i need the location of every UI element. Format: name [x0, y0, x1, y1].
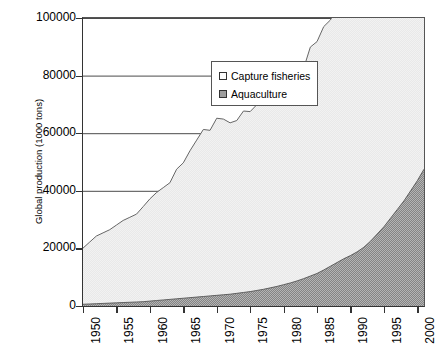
- legend-swatch-capture-fisheries: [219, 72, 227, 80]
- legend-swatch-aquaculture: [219, 90, 227, 98]
- x-axis-label-2000: 2000: [423, 317, 437, 361]
- x-tick-1970: [217, 307, 218, 313]
- x-axis-label-1990: 1990: [356, 317, 370, 361]
- y-axis-label-80000: 80000: [12, 68, 76, 82]
- plot-area: Capture fisheries Aquaculture: [82, 17, 425, 307]
- x-axis-label-1965: 1965: [189, 317, 203, 361]
- x-tick-2000: [417, 307, 418, 313]
- x-axis-label-1955: 1955: [122, 317, 136, 361]
- x-tick-1980: [284, 307, 285, 313]
- x-tick-1955: [116, 307, 117, 313]
- x-axis-label-1970: 1970: [223, 317, 237, 361]
- y-axis-label-40000: 40000: [12, 183, 76, 197]
- x-axis-label-1975: 1975: [256, 317, 270, 361]
- x-tick-1960: [150, 307, 151, 313]
- x-axis-label-1980: 1980: [290, 317, 304, 361]
- x-tick-1950: [83, 307, 84, 313]
- legend-label-aquaculture: Aquaculture: [231, 89, 287, 100]
- x-tick-1995: [384, 307, 385, 313]
- fisheries-production-chart: Global production (1000 tons) 1000008000…: [0, 0, 439, 364]
- x-tick-1985: [317, 307, 318, 313]
- y-axis-label-100000: 100000: [12, 10, 76, 24]
- x-axis-label-1985: 1985: [323, 317, 337, 361]
- chart-legend: Capture fisheries Aquaculture: [211, 61, 318, 106]
- x-axis-label-1995: 1995: [390, 317, 404, 361]
- x-tick-1965: [183, 307, 184, 313]
- x-tick-1990: [350, 307, 351, 313]
- legend-label-capture-fisheries: Capture fisheries: [231, 71, 310, 82]
- y-axis-label-60000: 60000: [12, 125, 76, 139]
- x-axis-label-1950: 1950: [89, 317, 103, 361]
- legend-item-capture-fisheries: Capture fisheries: [219, 67, 317, 85]
- y-axis-tick-labels: 100000800006000040000200000: [10, 0, 76, 364]
- legend-item-aquaculture: Aquaculture: [219, 85, 317, 103]
- y-axis-label-0: 0: [12, 298, 76, 312]
- x-axis-label-1960: 1960: [156, 317, 170, 361]
- x-tick-1975: [250, 307, 251, 313]
- y-axis-label-20000: 20000: [12, 240, 76, 254]
